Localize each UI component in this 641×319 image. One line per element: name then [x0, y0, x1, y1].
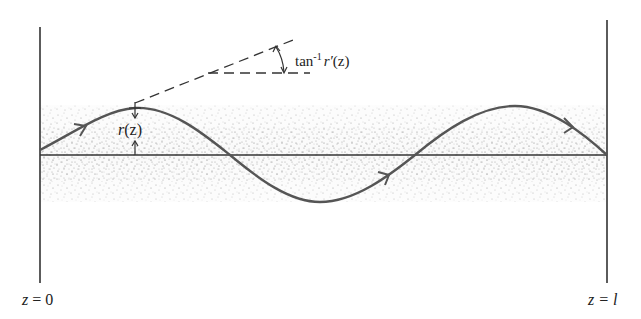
- core-region: [40, 105, 607, 202]
- tangent-line: [135, 40, 293, 103]
- right-boundary-label: z = l: [587, 291, 618, 308]
- angle-arc: [273, 46, 287, 73]
- angle-label: tan-1r′(z): [295, 51, 349, 70]
- diagram-canvas: tan-1r′(z) r(z) z = 0 z = l: [0, 0, 641, 319]
- radius-label: r(z): [118, 121, 142, 139]
- left-boundary-label: z = 0: [21, 291, 53, 308]
